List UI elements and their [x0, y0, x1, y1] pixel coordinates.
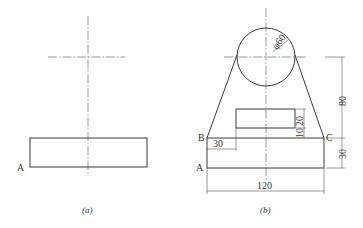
dim-30-left: 30	[213, 138, 223, 149]
label-a: A	[196, 162, 204, 173]
label-a: A	[17, 162, 25, 173]
base-rectangle	[30, 138, 147, 167]
caption-a: (a)	[82, 205, 93, 215]
figure-b: φ60 B C A 80 30 20 10 30 120	[196, 8, 348, 215]
dim-10: 10	[294, 128, 305, 138]
base-rectangle	[207, 138, 324, 168]
figure-a: A (a)	[17, 16, 147, 215]
technical-drawing: A (a) φ60 B C A 80 30 20	[0, 0, 363, 228]
dim-80: 80	[337, 96, 348, 106]
dim-20: 20	[294, 116, 305, 126]
dim-30-right: 30	[337, 149, 348, 159]
left-tangent-line	[207, 55, 237, 138]
slot-rectangle	[236, 109, 295, 128]
dim-120: 120	[257, 180, 272, 191]
label-b: B	[198, 132, 205, 143]
label-c: C	[326, 132, 333, 143]
caption-b: (b)	[260, 205, 271, 215]
